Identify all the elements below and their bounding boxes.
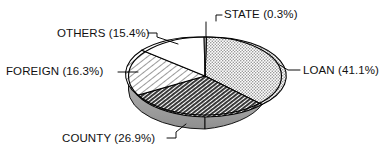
leader-line-state [206,15,222,37]
slice-label-state: STATE (0.3%) [224,8,298,21]
slice-label-county: COUNTY (26.9%) [62,132,155,145]
slice-label-others: OTHERS (15.4%) [57,27,150,40]
pie-chart-graphic [0,0,388,162]
slice-label-foreign: FOREIGN (16.3%) [6,65,103,78]
slice-label-loan: LOAN (41.1%) [303,64,379,77]
pie-chart: STATE (0.3%) OTHERS (15.4%) FOREIGN (16.… [0,0,388,162]
